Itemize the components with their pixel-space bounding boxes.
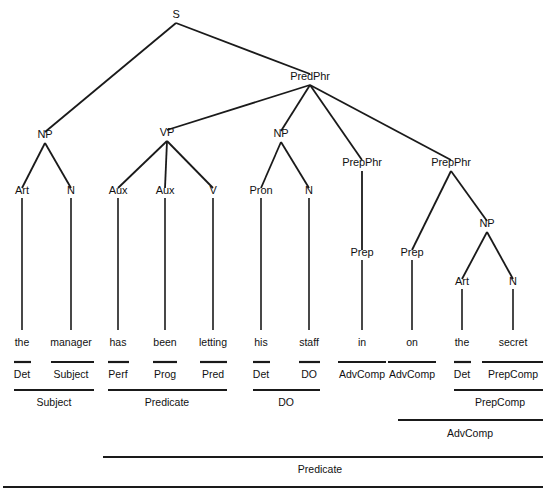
tree-edge-np1-to-n1 xyxy=(45,143,71,188)
bracket-label-predicate-1: Predicate xyxy=(145,396,189,408)
tree-node-prep2: Prep xyxy=(401,246,424,258)
tree-edge-vp-to-v xyxy=(167,141,213,188)
tree-edge-np3-to-art2 xyxy=(462,232,487,279)
function-label-subject-1: Subject xyxy=(53,368,88,380)
function-label-pred-4: Pred xyxy=(202,368,224,380)
sentence-word-his-5: his xyxy=(254,336,267,348)
tree-edge-np2-to-pron xyxy=(261,142,281,188)
function-label-det-9: Det xyxy=(454,368,470,380)
sentence-word-the-9: the xyxy=(455,336,470,348)
tree-node-aux2: Aux xyxy=(156,184,175,196)
tree-node-art2: Art xyxy=(455,275,469,287)
tree-node-prepphr1: PrepPhr xyxy=(342,156,382,168)
tree-node-s: S xyxy=(172,8,179,20)
tree-node-pron: Pron xyxy=(250,184,273,196)
sentence-word-been-3: been xyxy=(153,336,176,348)
tree-edge-predphr-to-vp xyxy=(167,85,310,130)
function-label-prog-3: Prog xyxy=(154,368,176,380)
tree-node-v: V xyxy=(209,184,216,196)
function-label-perf-2: Perf xyxy=(108,368,127,380)
tree-edge-prepphr2-to-prep2 xyxy=(412,171,451,250)
tree-node-art1: Art xyxy=(15,184,29,196)
tree-node-n2: N xyxy=(305,184,313,196)
bracket-label-prepcomp-3: PrepComp xyxy=(475,396,525,408)
bracket-label-advcomp-4: AdvComp xyxy=(447,427,493,439)
tree-node-vp: VP xyxy=(160,126,174,138)
tree-node-n3: N xyxy=(509,275,517,287)
sentence-word-has-2: has xyxy=(110,336,127,348)
tree-node-predphr: PredPhr xyxy=(290,70,330,82)
leaf-stems-group xyxy=(22,198,513,330)
tree-edge-predphr-to-prepphr1 xyxy=(310,85,362,160)
tree-lines-svg xyxy=(0,0,543,497)
tree-node-n1: N xyxy=(67,184,75,196)
bracket-label-predicate-5: Predicate xyxy=(298,463,342,475)
tree-edge-np1-to-art1 xyxy=(22,143,45,188)
sentence-word-staff-6: staff xyxy=(299,336,319,348)
tree-node-prepphr2: PrepPhr xyxy=(431,156,471,168)
tree-edges-group xyxy=(22,23,513,279)
tree-node-np1: NP xyxy=(37,128,52,140)
tree-edge-vp-to-aux1 xyxy=(118,141,167,188)
sentence-word-secret-10: secret xyxy=(499,336,528,348)
bracket-label-do-2: DO xyxy=(278,396,294,408)
sentence-word-on-8: on xyxy=(406,336,418,348)
sentence-word-manager-1: manager xyxy=(50,336,91,348)
function-label-do-6: DO xyxy=(301,368,317,380)
function-label-det-5: Det xyxy=(253,368,269,380)
tree-edge-s-to-np1 xyxy=(45,23,176,132)
function-label-advcomp-7: AdvComp xyxy=(339,368,385,380)
tree-edge-np2-to-n2 xyxy=(281,142,309,188)
tree-edge-s-to-predphr xyxy=(176,23,310,74)
function-label-det-0: Det xyxy=(14,368,30,380)
tree-edge-predphr-to-prepphr2 xyxy=(310,85,451,160)
tree-node-prep1: Prep xyxy=(351,246,374,258)
tree-edge-vp-to-aux2 xyxy=(165,141,167,188)
tree-edge-np3-to-n3 xyxy=(487,232,513,279)
sentence-word-the-0: the xyxy=(15,336,30,348)
syntax-tree-diagram: SPredPhrNPVPNPPrepPhrPrepPhrArtNAuxAuxVP… xyxy=(0,0,543,497)
sentence-word-in-7: in xyxy=(358,336,366,348)
tree-node-aux1: Aux xyxy=(109,184,128,196)
function-label-advcomp-8: AdvComp xyxy=(389,368,435,380)
function-label-prepcomp-10: PrepComp xyxy=(488,368,538,380)
tree-node-np2: NP xyxy=(273,127,288,139)
bracket-label-subject-0: Subject xyxy=(36,396,71,408)
tree-node-np3: NP xyxy=(479,217,494,229)
tree-edge-prepphr2-to-np3 xyxy=(451,171,487,221)
sentence-word-letting-4: letting xyxy=(199,336,227,348)
